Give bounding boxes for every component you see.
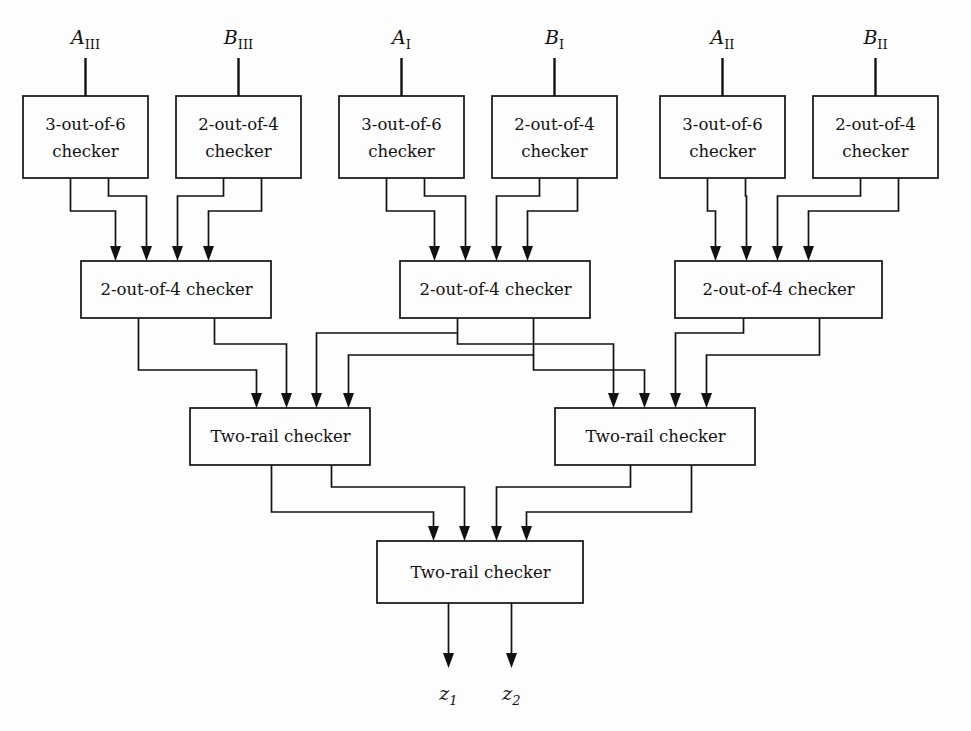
input-label-base: A	[390, 26, 406, 48]
box-2-out-of-4-checker-I[interactable]: 2-out-of-4 checker	[492, 96, 617, 178]
wire-r3b1-o2	[332, 465, 465, 528]
wire-r1b5-o2	[746, 178, 747, 248]
box-label-line2: checker	[52, 142, 119, 161]
box-label-line1: 2-out-of-4	[514, 115, 594, 134]
diagram-page: 3-out-of-6 checker 2-out-of-4 checker 3-…	[0, 0, 971, 731]
input-label-base: B	[223, 26, 238, 48]
arrowhead	[803, 246, 814, 261]
wires-group-I	[387, 178, 578, 248]
input-label-base: B	[544, 26, 559, 48]
box-label-line2: checker	[842, 142, 909, 161]
box-outline	[492, 96, 617, 178]
arrowheads-row3	[251, 393, 712, 408]
wire-r1b3-o2	[425, 178, 466, 248]
box-row3-two-rail-checker-left[interactable]: Two-rail checker	[190, 408, 370, 465]
box-label: 2-out-of-4 checker	[419, 280, 571, 299]
arrowhead	[429, 246, 440, 261]
box-label-line2: checker	[368, 142, 435, 161]
input-label-sub: II	[877, 37, 887, 52]
box-row2-2-out-of-4-checker-right[interactable]: 2-out-of-4 checker	[675, 261, 882, 318]
wire-r1b4-o1	[497, 178, 540, 248]
arrowheads-row4	[428, 526, 532, 541]
wire-r1b1-o2	[109, 178, 147, 248]
input-labels: AIII BIII AI BI AII BII	[69, 26, 888, 52]
box-label-line1: 2-out-of-4	[198, 115, 278, 134]
output-label-z2: z2	[501, 682, 520, 708]
arrowhead	[741, 246, 752, 261]
wire-r2b2-o2-right	[534, 355, 645, 395]
wire-r1b6-o2	[809, 178, 899, 248]
output-label-z1: z1	[438, 682, 457, 708]
input-label-B-II: BII	[862, 26, 887, 52]
arrowhead	[460, 246, 471, 261]
arrowhead	[311, 393, 322, 408]
arrowhead	[281, 393, 292, 408]
box-3-out-of-6-checker-I[interactable]: 3-out-of-6 checker	[339, 96, 464, 178]
wire-r2b3-o2	[707, 318, 820, 395]
wire-r1b6-o1	[778, 178, 861, 248]
wire-r2b2-o1	[317, 318, 458, 395]
row1-boxes: 3-out-of-6 checker 2-out-of-4 checker 3-…	[23, 96, 938, 178]
wire-r1b3-o1	[387, 178, 435, 248]
input-label-sub: III	[85, 37, 100, 52]
arrowheads-row2	[110, 246, 814, 261]
arrowhead	[141, 246, 152, 261]
box-label-line2: checker	[521, 142, 588, 161]
wires-outputs	[449, 603, 512, 655]
wire-r1b2-o1	[178, 178, 224, 248]
output-label-sub: 1	[449, 693, 457, 708]
box-3-out-of-6-checker-II[interactable]: 3-out-of-6 checker	[660, 96, 785, 178]
wire-r2b2-o1-right	[458, 333, 614, 395]
input-label-A-I: AI	[390, 26, 411, 52]
input-label-sub: I	[559, 37, 564, 52]
box-outline	[660, 96, 785, 178]
arrowhead	[459, 526, 470, 541]
wire-r3b2-o2	[527, 465, 692, 528]
box-label: Two-rail checker	[210, 427, 350, 446]
input-label-sub: III	[238, 37, 253, 52]
arrowhead	[110, 246, 121, 261]
arrowhead	[521, 526, 532, 541]
box-label-line1: 2-out-of-4	[835, 115, 915, 134]
arrowhead	[343, 393, 354, 408]
box-row2-2-out-of-4-checker-left[interactable]: 2-out-of-4 checker	[81, 261, 271, 318]
box-row3-two-rail-checker-right[interactable]: Two-rail checker	[555, 408, 755, 465]
arrowhead	[639, 393, 650, 408]
box-label-line2: checker	[205, 142, 272, 161]
input-stubs	[86, 58, 876, 96]
wires-row3-to-row4	[272, 465, 692, 528]
input-label-A-III: AIII	[69, 26, 100, 52]
arrowhead	[203, 246, 214, 261]
row3-boxes: Two-rail checker Two-rail checker	[190, 408, 755, 465]
box-label-line2: checker	[689, 142, 756, 161]
wires-row2-to-row3	[139, 318, 820, 395]
box-3-out-of-6-checker-III[interactable]: 3-out-of-6 checker	[23, 96, 148, 178]
arrowheads-outputs	[443, 653, 517, 668]
box-label: 2-out-of-4 checker	[702, 280, 854, 299]
box-outline	[23, 96, 148, 178]
wire-r1b4-o2	[528, 178, 578, 248]
box-row2-2-out-of-4-checker-middle[interactable]: 2-out-of-4 checker	[400, 261, 590, 318]
wires-group-II	[708, 178, 899, 248]
input-label-B-I: BI	[544, 26, 564, 52]
arrowhead	[608, 393, 619, 408]
input-label-sub: II	[724, 37, 734, 52]
output-label-sub: 2	[511, 693, 520, 708]
box-row4-two-rail-checker-final[interactable]: Two-rail checker	[377, 541, 583, 603]
box-2-out-of-4-checker-II[interactable]: 2-out-of-4 checker	[813, 96, 938, 178]
wires-group-III	[71, 178, 262, 248]
input-label-base: A	[708, 26, 724, 48]
checker-tree-diagram: 3-out-of-6 checker 2-out-of-4 checker 3-…	[0, 0, 971, 731]
wire-r2b3-o1	[676, 318, 744, 395]
box-2-out-of-4-checker-III[interactable]: 2-out-of-4 checker	[176, 96, 301, 178]
row2-boxes: 2-out-of-4 checker 2-out-of-4 checker 2-…	[81, 261, 882, 318]
wire-r1b5-o1	[708, 178, 716, 248]
arrowhead	[172, 246, 183, 261]
arrowhead	[443, 653, 454, 668]
arrowhead	[428, 526, 439, 541]
input-label-base: B	[862, 26, 877, 48]
box-outline	[176, 96, 301, 178]
wire-r2b2-o2	[349, 318, 534, 395]
wire-r2b1-o2	[215, 318, 287, 395]
wire-r3b2-o1	[497, 465, 631, 528]
